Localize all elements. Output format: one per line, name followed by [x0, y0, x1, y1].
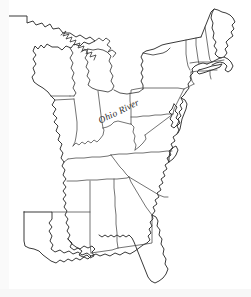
border-virginia-northcarolina — [111, 151, 172, 155]
delmarva-peninsula — [178, 98, 187, 133]
border-indiana-kentucky-ohio-river — [73, 128, 104, 146]
border-southcarolina-georgia — [129, 177, 152, 215]
outline-atlantic-georgia-carolinas — [152, 134, 177, 215]
border-alabama-georgia — [114, 179, 118, 248]
border-newyork-vermont — [186, 40, 190, 70]
lake-ontario-shoreline — [143, 48, 170, 55]
outline-mississippi-river-west — [51, 96, 64, 162]
map-outline-svg — [0, 0, 251, 297]
border-westvirginia-virginia — [135, 135, 146, 150]
map-figure: Ohio River — [0, 0, 251, 297]
border-wisconsin-illinois — [55, 99, 74, 100]
border-mississippi-alabama — [90, 181, 91, 253]
border-illinois-south-tip — [64, 159, 68, 162]
border-kentucky-westvirginia — [131, 124, 136, 150]
outline-louisiana — [24, 212, 91, 263]
border-illinois-indiana — [73, 99, 77, 146]
border-northcarolina-southcarolina — [129, 177, 168, 197]
border-maryland-virginia — [145, 114, 173, 135]
lake-superior-shoreline — [95, 38, 116, 57]
border-ohio-pennsylvania — [130, 93, 131, 124]
outline-newjersey-coast — [186, 63, 207, 92]
lake-erie-shoreline — [114, 89, 143, 94]
outline-florida — [99, 215, 168, 283]
lake-michigan-west-shore — [70, 48, 76, 96]
border-ohio-kentucky-ohio-river — [103, 121, 131, 128]
border-vermont-newhampshire — [196, 38, 199, 64]
outline-maine-coast — [211, 9, 235, 58]
outline-minnesota-northwest — [8, 16, 95, 96]
border-tennessee-northcarolina — [111, 155, 129, 177]
border-pennsylvania-south — [131, 114, 173, 117]
border-indiana-ohio — [98, 91, 103, 128]
border-connecticut-rhodeisland — [210, 70, 211, 79]
outline-mississippi-alabama-west — [62, 162, 70, 239]
long-island — [197, 64, 222, 74]
border-massachusetts-connecticut — [191, 70, 217, 72]
massachusetts-bay-coast — [224, 39, 229, 57]
border-newhampshire-maine — [205, 27, 212, 62]
border-kentucky-tennessee — [68, 155, 111, 159]
lower-peninsula-michigan — [81, 49, 114, 92]
border-tennessee-south — [67, 177, 129, 181]
